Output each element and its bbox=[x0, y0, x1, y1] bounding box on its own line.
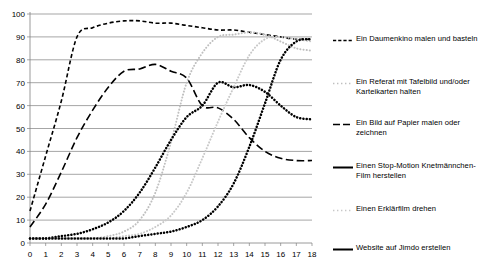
x-tick-label: 12 bbox=[214, 250, 223, 259]
legend-item-4[interactable]: Einen Erklärfilm drehen bbox=[333, 204, 481, 215]
legend-item-2[interactable]: Ein Bild auf Papier malen oder zeichnen bbox=[333, 118, 481, 137]
x-tick-label: 17 bbox=[292, 250, 301, 259]
line-chart: 0102030405060708090100012345678910111213… bbox=[0, 0, 330, 272]
y-tick-label: 50 bbox=[16, 125, 25, 134]
x-tick-label: 16 bbox=[276, 250, 285, 259]
x-tick-label: 4 bbox=[90, 250, 95, 259]
x-tick-label: 13 bbox=[229, 250, 238, 259]
plot-svg: 0102030405060708090100012345678910111213… bbox=[0, 0, 330, 272]
x-tick-label: 14 bbox=[245, 250, 254, 259]
chart-legend: Ein Daumenkino malen und basteln Ein Ref… bbox=[333, 0, 481, 272]
series-line-4 bbox=[30, 37, 312, 239]
x-tick-label: 2 bbox=[59, 250, 64, 259]
legend-marker-dotted-heavy-icon bbox=[333, 163, 353, 172]
x-tick-label: 7 bbox=[137, 250, 142, 259]
y-tick-label: 40 bbox=[16, 147, 25, 156]
y-tick-label: 90 bbox=[16, 33, 25, 42]
y-tick-label: 0 bbox=[21, 239, 26, 248]
legend-label-3: Einen Stop-Motion Knetmännchen-Film hers… bbox=[356, 161, 478, 180]
x-tick-label: 3 bbox=[75, 250, 80, 259]
series-line-1 bbox=[30, 32, 312, 238]
y-tick-label: 10 bbox=[16, 216, 25, 225]
series-line-0 bbox=[30, 21, 312, 211]
x-tick-label: 1 bbox=[43, 250, 48, 259]
x-tick-label: 5 bbox=[106, 250, 111, 259]
legend-marker-dotted-heavy2-icon bbox=[333, 245, 353, 254]
x-tick-label: 0 bbox=[28, 250, 33, 259]
legend-item-0[interactable]: Ein Daumenkino malen und basteln bbox=[333, 34, 481, 45]
legend-marker-dashed-long-icon bbox=[333, 120, 353, 129]
legend-marker-dotted-light2-icon bbox=[333, 206, 353, 215]
legend-marker-dashed-icon bbox=[333, 36, 353, 45]
legend-item-5[interactable]: Website auf Jimdo erstellen bbox=[333, 243, 481, 254]
y-tick-label: 20 bbox=[16, 193, 25, 202]
x-tick-label: 11 bbox=[198, 250, 207, 259]
x-tick-label: 8 bbox=[153, 250, 158, 259]
legend-label-0: Ein Daumenkino malen und basteln bbox=[356, 34, 478, 44]
chart-screenshot: 0102030405060708090100012345678910111213… bbox=[0, 0, 481, 272]
legend-label-5: Website auf Jimdo erstellen bbox=[356, 243, 478, 253]
legend-marker-dotted-light-icon bbox=[333, 79, 353, 88]
y-tick-label: 60 bbox=[16, 102, 25, 111]
x-tick-label: 6 bbox=[122, 250, 127, 259]
legend-item-1[interactable]: Ein Referat mit Tafelbild und/oder Karte… bbox=[333, 77, 481, 96]
y-tick-label: 100 bbox=[12, 10, 26, 19]
x-tick-label: 18 bbox=[308, 250, 317, 259]
x-tick-label: 15 bbox=[261, 250, 270, 259]
x-tick-label: 10 bbox=[182, 250, 191, 259]
y-tick-label: 70 bbox=[16, 79, 25, 88]
legend-label-4: Einen Erklärfilm drehen bbox=[356, 204, 478, 214]
legend-label-1: Ein Referat mit Tafelbild und/oder Karte… bbox=[356, 77, 478, 96]
legend-label-2: Ein Bild auf Papier malen oder zeichnen bbox=[356, 118, 478, 137]
x-tick-label: 9 bbox=[169, 250, 174, 259]
legend-item-3[interactable]: Einen Stop-Motion Knetmännchen-Film hers… bbox=[333, 161, 481, 180]
y-tick-label: 30 bbox=[16, 170, 25, 179]
y-tick-label: 80 bbox=[16, 56, 25, 65]
